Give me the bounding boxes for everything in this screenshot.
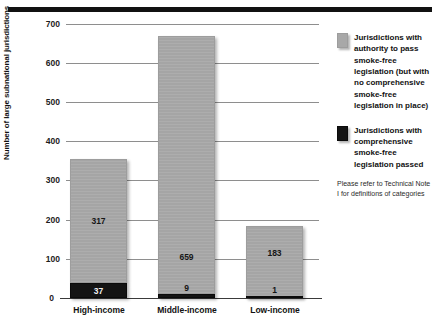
legend-entry-authority[interactable]: Jurisdictions with authority to pass smo… [337, 32, 433, 112]
legend-swatch-grey-icon [337, 33, 348, 48]
y-tick-400: 400 [46, 136, 60, 146]
bar-group-high-income[interactable]: 317 37 [70, 159, 127, 298]
bar-segment-comprehensive-middle-income[interactable]: 9 [158, 294, 215, 298]
chart-legend: Jurisdictions with authority to pass smo… [337, 32, 433, 199]
y-tick-600: 600 [46, 58, 60, 68]
gridline-0-baseline: 0 [60, 298, 322, 299]
bar-segment-authority-middle-income[interactable]: 659 [158, 36, 215, 294]
legend-label-authority: Jurisdictions with authority to pass smo… [354, 32, 433, 112]
legend-label-comprehensive: Jurisdictions with comprehensive smoke-f… [354, 125, 433, 170]
y-tick-100: 100 [46, 254, 60, 264]
y-tick-0: 0 [49, 293, 54, 303]
bar-value-comprehensive-high-income: 37 [71, 286, 126, 295]
y-tick-700: 700 [46, 19, 60, 29]
plot-area: 700 600 500 400 300 200 100 0 317 3 [66, 24, 319, 298]
top-rule-divider [8, 7, 432, 12]
gridline-700: 700 [66, 24, 319, 25]
legend-entry-comprehensive[interactable]: Jurisdictions with comprehensive smoke-f… [337, 125, 433, 170]
y-axis-label: Number of large subnational jurisdiction… [2, 6, 11, 160]
bar-segment-authority-high-income[interactable]: 317 [70, 159, 127, 283]
chart-figure: Number of large subnational jurisdiction… [0, 0, 439, 330]
bar-group-middle-income[interactable]: 659 9 [158, 36, 215, 298]
legend-swatch-black-icon [337, 126, 348, 141]
bar-segment-comprehensive-low-income[interactable]: 1 [246, 296, 303, 298]
y-tick-500: 500 [46, 97, 60, 107]
x-tick-low-income: Low-income [216, 305, 334, 315]
y-tick-200: 200 [46, 215, 60, 225]
legend-footnote: Please refer to Technical Note I for def… [337, 179, 433, 199]
bar-value-comprehensive-low-income: 1 [247, 286, 302, 295]
bar-value-comprehensive-middle-income: 9 [159, 284, 214, 293]
bar-group-low-income[interactable]: 183 1 [246, 226, 303, 298]
bar-segment-comprehensive-high-income[interactable]: 37 [70, 283, 127, 298]
bar-value-authority-low-income: 183 [247, 249, 302, 258]
bar-value-authority-middle-income: 659 [159, 253, 214, 262]
y-tick-300: 300 [46, 175, 60, 185]
bar-value-authority-high-income: 317 [71, 217, 126, 226]
